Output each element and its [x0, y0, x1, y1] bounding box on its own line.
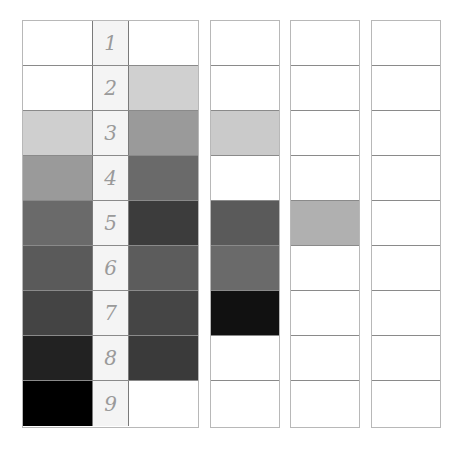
shade-cell[interactable] — [291, 111, 359, 155]
grid-row — [291, 156, 359, 201]
shade-cell-left[interactable] — [23, 111, 93, 155]
shade-cell[interactable] — [372, 336, 440, 380]
shade-cell[interactable] — [291, 21, 359, 65]
grid-row — [291, 246, 359, 291]
grid-row: 9 — [23, 381, 198, 426]
grid-row — [291, 381, 359, 426]
shade-cell[interactable] — [372, 21, 440, 65]
grid-row — [291, 66, 359, 111]
grid-row — [291, 111, 359, 156]
grid-row: 7 — [23, 291, 198, 336]
shade-cell[interactable] — [211, 336, 279, 380]
grid-row — [211, 66, 279, 111]
shade-cell[interactable] — [211, 21, 279, 65]
row-number-label: 8 — [93, 336, 129, 380]
grid-row — [211, 21, 279, 66]
shade-cell[interactable] — [291, 201, 359, 245]
shade-cell[interactable] — [211, 156, 279, 200]
grid-row — [291, 336, 359, 381]
shade-cell-left[interactable] — [23, 336, 93, 380]
shade-cell[interactable] — [372, 246, 440, 290]
shade-cell-right[interactable] — [129, 21, 198, 65]
grid-row: 5 — [23, 201, 198, 246]
grid-row — [372, 111, 440, 156]
shade-cell[interactable] — [211, 291, 279, 335]
shade-cell[interactable] — [372, 66, 440, 110]
grid-row — [372, 381, 440, 426]
shade-cell-right[interactable] — [129, 336, 198, 380]
grid-row: 2 — [23, 66, 198, 111]
row-number-label: 5 — [93, 201, 129, 245]
grid-row — [372, 201, 440, 246]
shade-cell-right[interactable] — [129, 66, 198, 110]
shade-cell[interactable] — [372, 201, 440, 245]
shade-column-4 — [371, 20, 441, 428]
shade-cell-right[interactable] — [129, 246, 198, 290]
grid-row — [211, 381, 279, 426]
row-number-label: 7 — [93, 291, 129, 335]
shade-cell[interactable] — [372, 156, 440, 200]
shade-cell-right[interactable] — [129, 111, 198, 155]
shade-column-3 — [290, 20, 360, 428]
shade-cell[interactable] — [211, 66, 279, 110]
row-number-label: 6 — [93, 246, 129, 290]
row-number-label: 1 — [93, 21, 129, 65]
shade-cell-left[interactable] — [23, 246, 93, 290]
shade-column-2 — [210, 20, 280, 428]
shade-cell[interactable] — [291, 381, 359, 426]
row-number-label: 9 — [93, 381, 129, 426]
row-number-label: 4 — [93, 156, 129, 200]
grid-row — [372, 156, 440, 201]
shade-cell-right[interactable] — [129, 381, 198, 426]
grid-row — [291, 21, 359, 66]
shade-cell[interactable] — [211, 111, 279, 155]
shade-cell[interactable] — [291, 246, 359, 290]
grid-row — [291, 201, 359, 246]
shade-cell-right[interactable] — [129, 291, 198, 335]
grid-row — [291, 291, 359, 336]
grid-row — [372, 246, 440, 291]
grid-row — [211, 156, 279, 201]
shade-cell[interactable] — [211, 381, 279, 426]
grid-row: 4 — [23, 156, 198, 201]
grid-row: 3 — [23, 111, 198, 156]
shade-cell[interactable] — [291, 336, 359, 380]
shade-cell-left[interactable] — [23, 381, 93, 426]
shade-cell[interactable] — [291, 66, 359, 110]
grid-row — [372, 291, 440, 336]
grid-row — [372, 336, 440, 381]
grid-row — [211, 336, 279, 381]
grid-row — [211, 201, 279, 246]
shade-cell-left[interactable] — [23, 21, 93, 65]
grid-row — [372, 66, 440, 111]
shade-cell-left[interactable] — [23, 291, 93, 335]
shade-cell-left[interactable] — [23, 66, 93, 110]
shade-cell[interactable] — [372, 381, 440, 426]
row-number-label: 2 — [93, 66, 129, 110]
shade-cell-right[interactable] — [129, 201, 198, 245]
shade-cell[interactable] — [211, 201, 279, 245]
grid-row — [372, 21, 440, 66]
labeled-shade-grid: 123456789 — [22, 20, 199, 428]
shade-cell[interactable] — [372, 111, 440, 155]
shade-cell[interactable] — [291, 156, 359, 200]
shade-cell[interactable] — [211, 246, 279, 290]
shade-cell-left[interactable] — [23, 156, 93, 200]
grid-row — [211, 291, 279, 336]
grid-row — [211, 246, 279, 291]
shade-cell[interactable] — [291, 291, 359, 335]
row-number-label: 3 — [93, 111, 129, 155]
grid-row: 8 — [23, 336, 198, 381]
grid-row — [211, 111, 279, 156]
shade-cell-left[interactable] — [23, 201, 93, 245]
shade-cell-right[interactable] — [129, 156, 198, 200]
grid-row: 1 — [23, 21, 198, 66]
grid-row: 6 — [23, 246, 198, 291]
shade-cell[interactable] — [372, 291, 440, 335]
